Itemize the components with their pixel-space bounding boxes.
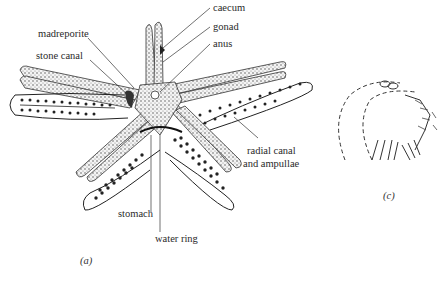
label-ampullae: and ampullae [243,158,299,170]
label-water-ring: water ring [155,233,198,245]
label-caecum: caecum [213,2,245,14]
arm-lower-left [76,110,160,210]
label-stone-canal: stone canal [36,50,83,62]
label-gonad: gonad [213,21,239,33]
leader-lines [88,8,258,232]
arm-lower-right [165,103,241,210]
panel-c-diagram [339,81,437,160]
label-stomach: stomach [118,208,153,220]
caption-panel-a: (a) [80,255,92,266]
label-madreporite: madreporite [38,28,89,40]
arm-left [10,66,140,119]
arm-top [146,22,165,88]
caption-panel-c: (c) [383,190,395,201]
label-radial-canal: radial canal [247,145,296,157]
label-anus: anus [213,38,232,50]
